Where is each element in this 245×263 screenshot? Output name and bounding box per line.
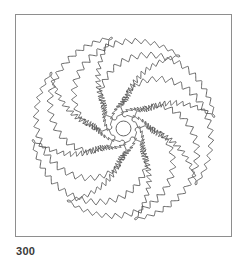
page-root: 300 bbox=[0, 0, 245, 263]
figure-frame bbox=[15, 14, 232, 237]
mandala-artwork bbox=[16, 15, 231, 236]
petal-group bbox=[32, 37, 215, 220]
center-circle bbox=[116, 121, 131, 136]
petal-3 bbox=[33, 72, 126, 180]
petal-5 bbox=[71, 38, 179, 131]
petal-1 bbox=[67, 126, 175, 219]
figure-number-label: 300 bbox=[16, 245, 35, 258]
petal-7 bbox=[121, 76, 214, 184]
